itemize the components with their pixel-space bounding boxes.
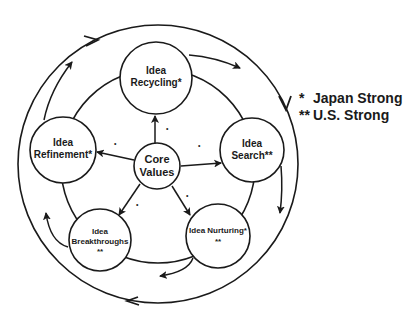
- outer-arrow-right-icon: [279, 96, 291, 110]
- node-core-line1: Core: [140, 153, 175, 166]
- arrow-recycling-to-search: [189, 55, 240, 68]
- node-recycling-line1: Idea: [130, 65, 181, 77]
- legend-item-us: **U.S. Strong: [299, 107, 402, 124]
- spoke-to-nurturing: [172, 186, 190, 215]
- spoke-to-refinement: [97, 152, 134, 160]
- legend: *Japan Strong **U.S. Strong: [299, 90, 402, 124]
- node-refinement-line2: Refinement*: [34, 149, 92, 161]
- node-refinement-line1: Idea: [34, 137, 92, 149]
- node-recycling-line2: Recycling*: [130, 77, 181, 89]
- node-search-label: Idea Search**: [231, 138, 272, 162]
- node-core-line2: Values: [140, 166, 175, 179]
- node-refinement-label: Idea Refinement*: [34, 137, 92, 161]
- dot-marker: •: [198, 142, 200, 149]
- legend-marker: *: [299, 90, 313, 107]
- dot-marker: •: [136, 201, 138, 208]
- node-nurturing-label: Idea Nurturing* **: [189, 225, 247, 247]
- legend-marker: **: [299, 107, 313, 124]
- dot-marker: •: [114, 140, 116, 147]
- dot-marker: •: [166, 125, 168, 132]
- node-recycling-label: Idea Recycling*: [130, 65, 181, 89]
- arrow-breakthroughs-to-refinement: [46, 213, 68, 247]
- legend-label: U.S. Strong: [313, 107, 389, 123]
- legend-label: Japan Strong: [313, 90, 402, 106]
- legend-item-japan: *Japan Strong: [299, 90, 402, 107]
- node-breakthroughs-label: Idea Breakthroughs **: [72, 227, 129, 257]
- dot-marker: •: [186, 192, 188, 199]
- arrow-refinement-to-recycling: [44, 62, 72, 120]
- arrow-search-to-nurturing: [280, 166, 282, 213]
- spoke-to-breakthroughs: [119, 184, 140, 215]
- spoke-to-search: [181, 163, 221, 166]
- node-search-line1: Idea: [231, 138, 272, 150]
- node-search-line2: Search**: [231, 150, 272, 162]
- node-nurturing-line1: Idea Nurturing*: [189, 225, 247, 236]
- node-core-label: Core Values: [140, 153, 175, 179]
- node-breakthroughs-line2: Breakthroughs: [72, 237, 129, 247]
- node-nurturing-line2: **: [189, 236, 247, 247]
- node-breakthroughs-line3: **: [72, 247, 129, 257]
- node-breakthroughs-line1: Idea: [72, 227, 129, 237]
- cycle-diagram: [0, 0, 413, 323]
